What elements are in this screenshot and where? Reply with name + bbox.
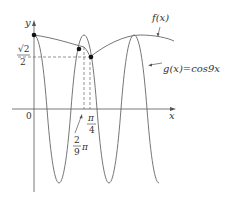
x-axis-label: x: [169, 110, 175, 121]
y-tick-numerator: √2: [18, 44, 29, 54]
y-axis-label: y: [24, 17, 31, 28]
two-ninths-pointer: [75, 117, 81, 133]
two-ninths-arrow-icon: [80, 114, 83, 119]
f-label: f(x): [151, 12, 169, 23]
x-tick-2-9-suffix: π: [81, 142, 89, 152]
graph-canvas: y x 0 √2 2 2 9 π π 4 f(x) g(x)=cos9x: [0, 0, 225, 198]
f-curve: [34, 35, 174, 57]
origin-label: 0: [26, 111, 32, 121]
point-0-1: [32, 33, 37, 38]
x-tick-pi-4-numerator: π: [87, 113, 95, 123]
y-axis-arrow-icon: [32, 20, 36, 26]
g-pointer-arrow-icon: [148, 64, 152, 67]
y-tick-denominator: 2: [20, 57, 26, 67]
x-tick-2-9-numerator: 2: [74, 135, 80, 145]
x-tick-2-9-denominator: 9: [74, 147, 80, 157]
x-tick-pi-4-denominator: 4: [89, 125, 95, 135]
point-two-ninths-pi: [77, 47, 82, 52]
point-pi-over-4: [89, 55, 94, 60]
g-label: g(x)=cos9x: [163, 63, 220, 74]
